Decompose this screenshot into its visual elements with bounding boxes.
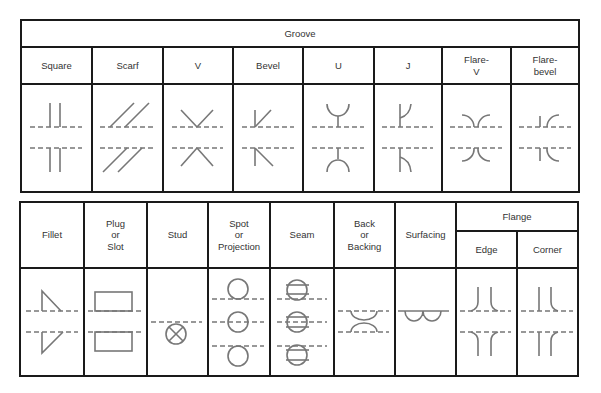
groove-table: Groove Square Scarf V Bevel U J Flare- V… <box>20 19 580 193</box>
flange-corner-icon <box>21 203 577 377</box>
flare-bevel-groove-icon <box>22 21 578 193</box>
weld-symbol-table: Fillet Plug or Slot Stud Spot or Project… <box>19 201 579 377</box>
